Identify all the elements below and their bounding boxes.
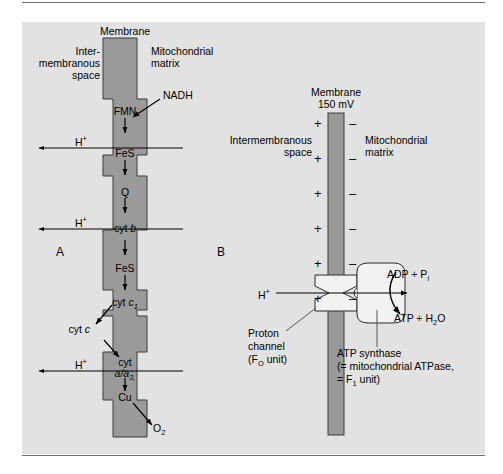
membrane-charge-positive-1: + bbox=[314, 118, 322, 131]
o2-subscript: 2 bbox=[161, 428, 165, 437]
adp-text: ADP + P bbox=[387, 268, 427, 280]
panel-b-membrane-potential: 150 mV bbox=[296, 98, 376, 111]
atp-text: ATP + H bbox=[394, 312, 433, 324]
carrier-cytc-italic: c bbox=[85, 323, 90, 335]
panel-a-matrix-line1: Mitochondrial bbox=[151, 45, 213, 58]
panel-b-synthase-label-line2: (= mitochondrial ATPase, bbox=[337, 360, 454, 373]
carrier-cytc1-prefix: cyt bbox=[112, 296, 128, 308]
adp-sub: i bbox=[427, 274, 429, 283]
panel-a-nadh-label: NADH bbox=[163, 89, 193, 102]
membrane-charge-positive-2: + bbox=[314, 153, 322, 166]
panel-b-matrix-line1: Mitochondrial bbox=[365, 134, 427, 147]
panel-b-proton-label: H+ bbox=[258, 286, 270, 301]
carrier-cytc-prefix: cyt bbox=[68, 323, 84, 335]
panel-a-proton-label-1: H+ bbox=[75, 133, 87, 148]
proton-charge-2: + bbox=[83, 215, 87, 224]
panel-a-proton-label-2: H+ bbox=[75, 214, 87, 229]
panel-a-carrier-cytc1: cyt c1 bbox=[95, 296, 155, 314]
panel-a-matrix-line2: matrix bbox=[151, 57, 180, 70]
panel-b-atp-label: ATP + H2O bbox=[394, 312, 445, 330]
panel-b-channel-label-line2: channel bbox=[248, 340, 285, 353]
proton-charge-3: + bbox=[83, 357, 87, 366]
panel-a-proton-label-3: H+ bbox=[75, 356, 87, 371]
panel-b-synthase-label-line1: ATP synthase bbox=[337, 347, 401, 360]
panel-a-intermembranous-line2: membranous bbox=[10, 57, 100, 70]
carrier-cytaa3-sub: 3, bbox=[129, 373, 135, 382]
panel-b-adp-label: ADP + Pi bbox=[387, 268, 429, 286]
membrane-charge-negative-5: – bbox=[349, 258, 356, 271]
panel-a-carrier-fmn: FMN bbox=[95, 105, 155, 118]
panel-b-channel-label-line3: (FO unit) bbox=[248, 353, 287, 371]
carrier-cytaa3-italic: a/a bbox=[115, 367, 130, 379]
panel-b-channel-label-line1: Proton bbox=[248, 327, 279, 340]
panel-b-intermembranous-line1: Intermembranous bbox=[212, 134, 312, 147]
panel-b-synthase-label-line3: = F1 unit) bbox=[337, 373, 380, 391]
panel-a-carrier-fes-1: FeS bbox=[95, 147, 155, 160]
membrane-charge-negative-1: – bbox=[349, 118, 356, 131]
panel-a-membrane-title: Membrane bbox=[85, 25, 165, 38]
membrane-charge-negative-6: – bbox=[349, 293, 356, 306]
proton-h-1: H bbox=[75, 136, 83, 148]
carrier-cytc1-sub: 1 bbox=[134, 302, 138, 311]
panel-b-letter: B bbox=[217, 245, 225, 259]
panel-a-carrier-q: Q bbox=[95, 186, 155, 199]
figure-canvas: A Membrane Inter- membranous space Mitoc… bbox=[0, 0, 503, 474]
panel-b-membrane-title: Membrane bbox=[296, 86, 376, 99]
panel-a-intermembranous-line3: space bbox=[10, 69, 100, 82]
panel-a-letter: A bbox=[56, 245, 64, 259]
carrier-cytb-italic: b bbox=[130, 222, 136, 234]
membrane-charge-positive-4: + bbox=[314, 223, 322, 236]
f1-suffix: unit) bbox=[357, 373, 380, 385]
f0-prefix: (F bbox=[248, 353, 258, 365]
f1-prefix: = F bbox=[337, 373, 352, 385]
panel-b-intermembranous-line2: space bbox=[212, 146, 312, 159]
proton-charge-1: + bbox=[83, 134, 87, 143]
panel-a-o2-label: O2 bbox=[153, 422, 165, 440]
o2-element: O bbox=[153, 422, 161, 434]
panel-b-matrix-line2: matrix bbox=[365, 146, 394, 159]
atp-tail: O bbox=[437, 312, 445, 324]
membrane-charge-negative-3: – bbox=[349, 188, 356, 201]
panel-b-proton-h: H bbox=[258, 289, 266, 301]
panel-a-carrier-cytaa3-line2: a/a3, bbox=[95, 367, 155, 385]
membrane-charge-positive-6: + bbox=[314, 293, 322, 306]
panel-a-intermembranous-line1: Inter- bbox=[10, 45, 100, 58]
panel-a-carrier-cu: Cu bbox=[95, 391, 155, 404]
panel-a-carrier-fes-2: FeS bbox=[95, 262, 155, 275]
proton-h-2: H bbox=[75, 217, 83, 229]
membrane-charge-positive-5: + bbox=[314, 258, 322, 271]
membrane-charge-negative-2: – bbox=[349, 153, 356, 166]
panel-a-carrier-cytb: cyt b bbox=[95, 222, 155, 235]
f0-suffix: unit) bbox=[264, 353, 287, 365]
proton-h-3: H bbox=[75, 359, 83, 371]
carrier-cytb-prefix: cyt bbox=[114, 222, 130, 234]
membrane-charge-negative-4: – bbox=[349, 223, 356, 236]
membrane-charge-positive-3: + bbox=[314, 188, 322, 201]
panel-b-proton-charge: + bbox=[266, 287, 270, 296]
panel-a-carrier-cytc: cyt c bbox=[30, 323, 90, 336]
